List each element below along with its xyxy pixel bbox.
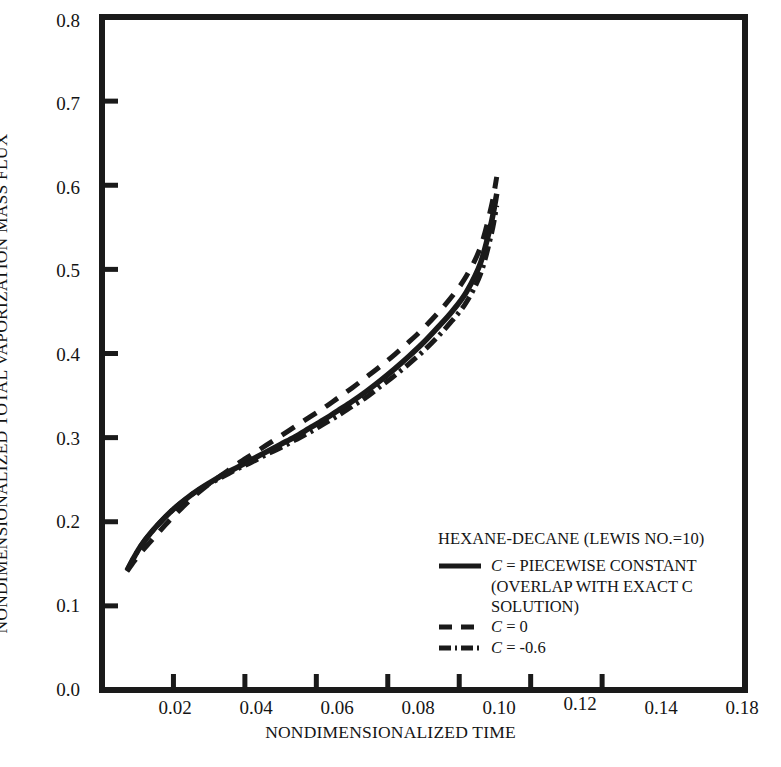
legend-value: 0 [520,617,528,636]
legend-equals: = [506,638,515,657]
legend-item-piecewise-constant: C = PIECEWISE CONSTANT [438,556,738,576]
chart-figure: NONDIMENSIONALIZED TOTAL VAPORIZATION MA… [0,0,781,767]
legend-label: C = 0 [491,617,528,637]
legend-title: HEXANE-DECANE (LEWIS NO.=10) [438,529,738,549]
legend-label: C = PIECEWISE CONSTANT [491,556,697,576]
series-line [127,177,497,572]
legend-item-c-negative: C = -0.6 [438,638,738,658]
legend-continuation-line-1: (OVERLAP WITH EXACT C [491,577,738,597]
legend-sample-dashed [438,617,482,637]
data-curves [127,177,497,572]
legend-value: PIECEWISE CONSTANT [520,556,697,575]
legend-variable: C [491,556,502,575]
legend-continuation-line-2: SOLUTION) [491,597,738,617]
chart-legend: HEXANE-DECANE (LEWIS NO.=10) C = PIECEWI… [438,529,738,659]
legend-variable: C [491,638,502,657]
legend-sample-solid [438,556,482,576]
legend-value: -0.6 [520,638,546,657]
legend-item-c-zero: C = 0 [438,617,738,637]
series-line [127,205,497,570]
series-line [127,194,497,571]
legend-equals: = [506,617,515,636]
legend-variable: C [491,617,502,636]
legend-equals: = [506,556,515,575]
legend-label: C = -0.6 [491,638,546,658]
legend-sample-dashdot [438,638,482,658]
